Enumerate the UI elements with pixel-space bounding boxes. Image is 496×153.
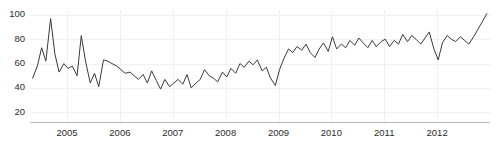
- x-axis-tick-labels: 20052006200720082009201020112012: [56, 127, 447, 138]
- x-tick-label: 2009: [268, 127, 289, 138]
- y-tick-label: 60: [14, 57, 25, 68]
- y-tick-label: 20: [14, 106, 25, 117]
- x-tick-label: 2006: [109, 127, 130, 138]
- x-tick-label: 2011: [374, 127, 394, 138]
- chart-canvas: 20406080100 2005200620072008200920102011…: [0, 0, 496, 153]
- y-tick-label: 80: [14, 33, 25, 44]
- x-tick-label: 2008: [215, 127, 236, 138]
- line-chart: 20406080100 2005200620072008200920102011…: [0, 0, 496, 153]
- x-tick-label: 2007: [162, 127, 183, 138]
- y-tick-label: 100: [9, 8, 25, 19]
- y-axis-tick-labels: 20406080100: [9, 8, 25, 116]
- y-tick-label: 40: [14, 81, 25, 92]
- data-series-line: [33, 14, 487, 89]
- x-tick-label: 2010: [321, 127, 342, 138]
- x-tick-label: 2012: [427, 127, 448, 138]
- x-tick-label: 2005: [56, 127, 77, 138]
